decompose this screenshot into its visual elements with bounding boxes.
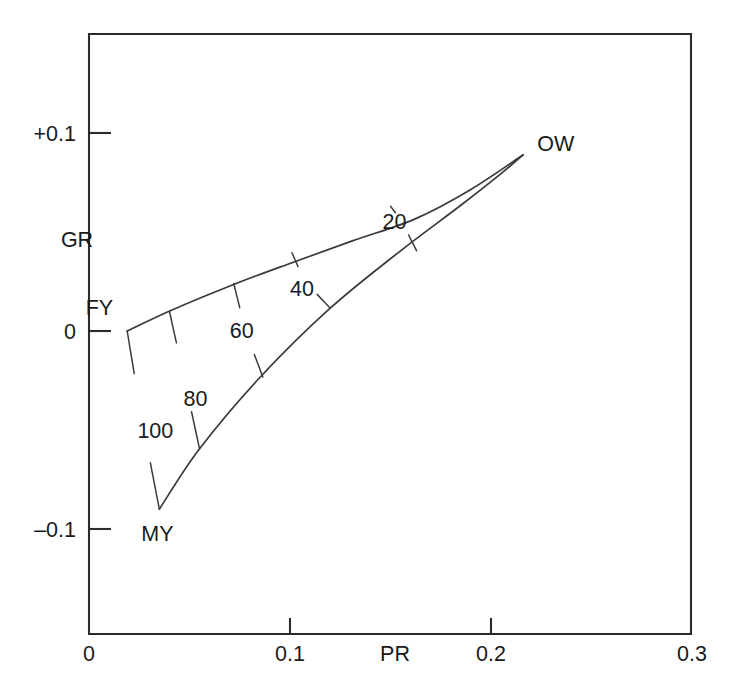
x-axis-title: PR [380, 642, 410, 666]
contour-40-upper [292, 253, 298, 267]
vertex-label-fy: FY [86, 296, 113, 320]
x-tick-label-0: 0 [83, 642, 95, 666]
y-tick-label-0: +0.1 [34, 122, 76, 146]
boundary-lower-boundary [159, 155, 523, 509]
vertex-label-my: MY [141, 522, 173, 546]
y-axis-title: GR [61, 228, 93, 252]
contour-100-lower [150, 463, 159, 510]
contour-80-upper [169, 311, 176, 343]
gamut-boundaries [127, 155, 523, 509]
y-tick-label-1: 0 [64, 320, 76, 344]
x-axis-ticks [290, 618, 491, 634]
contour-label-80: 80 [184, 387, 208, 411]
contour-100-upper [127, 331, 134, 374]
x-tick-label-3: 0.3 [677, 642, 707, 666]
x-tick-label-2: 0.2 [476, 642, 506, 666]
plot-frame [89, 34, 691, 634]
vertex-labels: FYMYOW [86, 132, 575, 546]
y-axis-tick-labels: +0.10–0.1 [34, 122, 76, 542]
contour-label-20: 20 [383, 210, 407, 234]
contour-40-lower [317, 294, 330, 308]
boundary-upper-boundary [127, 155, 523, 331]
contour-labels: 10080604020 [137, 210, 406, 443]
chart-figure: 00.10.20.3 +0.10–0.1 PR GR 10080604020 F… [0, 0, 733, 696]
contour-label-100: 100 [137, 419, 173, 443]
contour-lines [127, 206, 416, 509]
chart-canvas: 00.10.20.3 +0.10–0.1 PR GR 10080604020 F… [0, 0, 733, 696]
vertex-label-ow: OW [537, 132, 575, 156]
contour-60-lower [254, 354, 263, 376]
contour-60-upper [234, 283, 240, 307]
y-tick-label-2: –0.1 [34, 518, 76, 542]
contour-label-60: 60 [230, 319, 254, 343]
y-axis-ticks [89, 133, 111, 529]
x-tick-label-1: 0.1 [275, 642, 305, 666]
contour-80-lower [192, 412, 200, 449]
contour-label-40: 40 [290, 277, 314, 301]
